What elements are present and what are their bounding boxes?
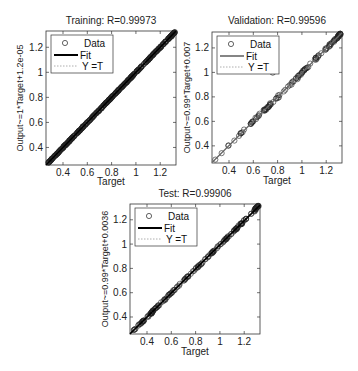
y-tick-label: 0.6: [113, 287, 127, 298]
y-tick-label: 0.4: [113, 311, 127, 322]
x-tick-label: 1.2: [237, 336, 251, 347]
x-tick-label: 0.8: [189, 336, 203, 347]
legend-yt-label: Y =T: [166, 234, 187, 245]
test-axes: 0.40.60.811.20.40.60.811.2DataFitY =T: [0, 0, 358, 371]
x-tick-label: 0.6: [164, 336, 178, 347]
y-tick-label: 1: [121, 239, 127, 250]
x-tick-label: 1: [217, 336, 223, 347]
x-tick-label: 0.4: [140, 336, 154, 347]
legend-fit-label: Fit: [164, 223, 175, 234]
legend-data-label: Data: [168, 211, 190, 222]
y-tick-label: 1.2: [113, 214, 127, 225]
legend: DataFitY =T: [135, 208, 197, 246]
y-tick-label: 0.8: [113, 263, 127, 274]
